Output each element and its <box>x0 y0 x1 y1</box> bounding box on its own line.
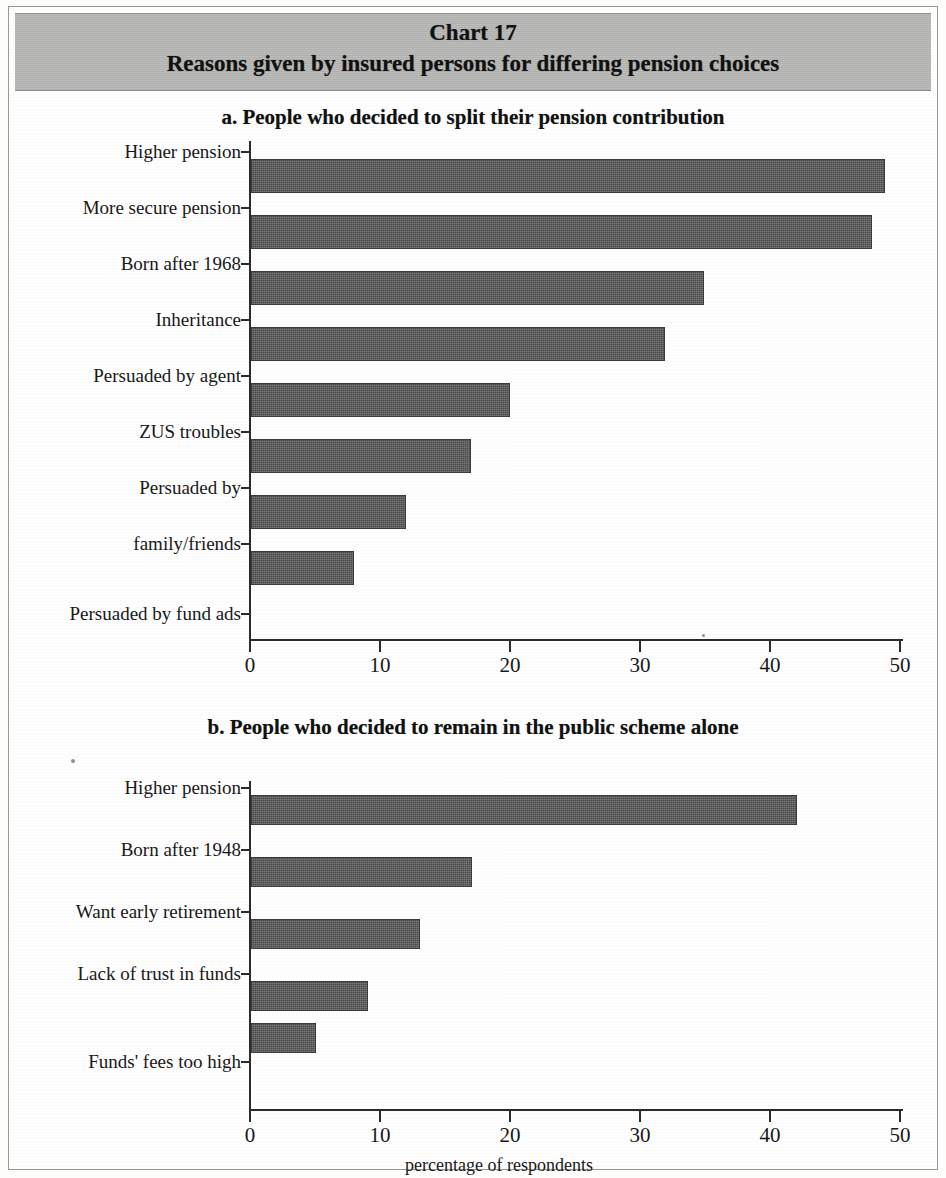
x-tick <box>899 1111 901 1122</box>
x-tick-label: 50 <box>890 653 911 677</box>
x-tick <box>249 1111 251 1122</box>
bar <box>251 159 885 193</box>
x-tick-label: 30 <box>630 653 651 677</box>
bar <box>251 795 797 825</box>
bar <box>251 857 472 887</box>
x-tick <box>769 641 771 652</box>
panel-b-bars: Higher pension Born after 1948 Want earl… <box>15 781 931 1111</box>
category-label: Persuaded by <box>0 477 241 499</box>
x-tick-label: 50 <box>890 1123 911 1147</box>
y-tick <box>241 787 250 789</box>
bar-row: Higher pension <box>15 141 931 197</box>
bar <box>251 551 354 585</box>
chart-number: Chart 17 <box>15 18 931 48</box>
x-tick-label: 40 <box>760 1123 781 1147</box>
scan-speck <box>702 634 705 637</box>
x-tick-label: 0 <box>245 1123 256 1147</box>
x-tick <box>249 641 251 652</box>
x-tick-label: 40 <box>760 653 781 677</box>
panel-b-plot: Higher pension Born after 1948 Want earl… <box>15 781 931 1111</box>
bar <box>251 439 471 473</box>
bar-row: family/friends <box>15 533 931 589</box>
panel-a-x-ticks: 0 10 20 30 40 50 <box>15 641 931 643</box>
bar <box>251 981 368 1011</box>
bar <box>251 1023 316 1053</box>
panel-b: b. People who decided to remain in the p… <box>15 713 931 1178</box>
category-label: Born after 1948 <box>0 839 241 861</box>
category-label: More secure pension <box>0 197 241 219</box>
y-tick <box>241 613 250 615</box>
category-label: ZUS troubles <box>0 421 241 443</box>
y-tick <box>241 319 250 321</box>
x-tick-label: 10 <box>370 1123 391 1147</box>
bar-row: ZUS troubles <box>15 421 931 477</box>
category-label: Higher pension <box>0 777 241 799</box>
bar-row: Persuaded by fund ads <box>15 589 931 641</box>
x-tick-label: 10 <box>370 653 391 677</box>
category-label: Lack of trust in funds <box>0 963 241 985</box>
bar-row: Born after 1968 <box>15 253 931 309</box>
y-tick <box>241 1061 250 1063</box>
bar <box>251 215 872 249</box>
y-tick <box>241 151 250 153</box>
y-tick <box>241 431 250 433</box>
category-label: Persuaded by agent <box>0 365 241 387</box>
y-tick <box>241 911 250 913</box>
category-label: Higher pension <box>0 141 241 163</box>
bar <box>251 383 510 417</box>
panel-b-subtitle: b. People who decided to remain in the p… <box>15 713 931 741</box>
category-label: Want early retirement <box>0 901 241 923</box>
scan-speck <box>71 759 75 763</box>
y-tick <box>241 263 250 265</box>
bar-row: Inheritance <box>15 309 931 365</box>
bar-row: Persuaded by <box>15 477 931 533</box>
bar-row: More secure pension <box>15 197 931 253</box>
y-tick <box>241 375 250 377</box>
x-tick-label: 0 <box>245 653 256 677</box>
chart-header-band: Chart 17 Reasons given by insured person… <box>15 13 931 91</box>
category-label: Funds' fees too high <box>0 1051 241 1073</box>
bar <box>251 495 406 529</box>
page-title: Reasons given by insured persons for dif… <box>15 48 931 80</box>
y-tick <box>241 207 250 209</box>
y-tick <box>241 973 250 975</box>
x-tick <box>379 1111 381 1122</box>
category-label: Inheritance <box>0 309 241 331</box>
category-label: family/friends <box>0 533 241 555</box>
panel-a-bars: Higher pension More secure pension Born … <box>15 141 931 641</box>
x-tick-label: 20 <box>500 653 521 677</box>
panel-a-plot: Higher pension More secure pension Born … <box>15 141 931 641</box>
bar-row: Born after 1948 <box>15 843 931 905</box>
y-tick <box>241 543 250 545</box>
bar-row: Want early retirement <box>15 905 931 967</box>
x-tick-label: 30 <box>630 1123 651 1147</box>
bar <box>251 271 704 305</box>
x-tick <box>769 1111 771 1122</box>
scanned-page: Chart 17 Reasons given by insured person… <box>0 0 946 1178</box>
bar <box>251 919 420 949</box>
x-tick <box>509 641 511 652</box>
category-label: Persuaded by fund ads <box>0 603 241 625</box>
panel-a: a. People who decided to split their pen… <box>15 103 931 663</box>
bar-row: Persuaded by agent <box>15 365 931 421</box>
bar-row: Lack of trust in funds <box>15 967 931 1029</box>
x-tick <box>899 641 901 652</box>
bar <box>251 327 665 361</box>
bar-row: Higher pension <box>15 781 931 843</box>
x-tick <box>639 641 641 652</box>
x-tick <box>509 1111 511 1122</box>
x-tick <box>639 1111 641 1122</box>
panel-a-subtitle: a. People who decided to split their pen… <box>15 103 931 131</box>
x-tick <box>379 641 381 652</box>
panel-b-x-ticks: 0 10 20 30 40 50 <box>15 1111 931 1113</box>
category-label: Born after 1968 <box>0 253 241 275</box>
bar-row: Funds' fees too high <box>15 1029 931 1091</box>
y-tick <box>241 487 250 489</box>
x-axis-caption: percentage of respondents <box>249 1155 749 1176</box>
page-border: Chart 17 Reasons given by insured person… <box>8 6 938 1170</box>
x-tick-label: 20 <box>500 1123 521 1147</box>
y-tick <box>241 849 250 851</box>
